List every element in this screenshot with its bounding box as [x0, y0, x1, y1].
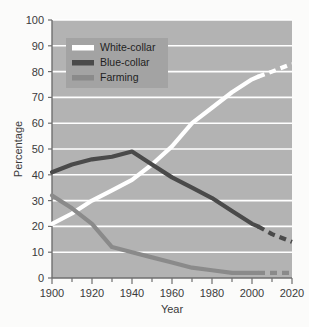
x-axis-ticks	[52, 278, 292, 284]
x-tick-label: 1960	[160, 287, 184, 299]
legend-label: White-collar	[100, 41, 156, 53]
y-tick-label: 10	[32, 246, 44, 258]
y-tick-label: 70	[32, 91, 44, 103]
x-tick-label: 1900	[40, 287, 64, 299]
legend-swatch	[72, 75, 94, 81]
x-axis-title: Year	[161, 303, 184, 315]
chart-page: 0102030405060708090100 19001920194019601…	[0, 0, 309, 327]
y-tick-label: 60	[32, 117, 44, 129]
x-tick-label: 1980	[200, 287, 224, 299]
y-tick-label: 40	[32, 169, 44, 181]
legend-swatch	[72, 45, 94, 51]
legend-label: Farming	[100, 71, 139, 83]
y-tick-label: 80	[32, 66, 44, 78]
x-tick-label: 2020	[280, 287, 304, 299]
x-axis-tick-labels: 1900192019401960198020002020	[40, 287, 304, 299]
legend-swatch	[72, 60, 94, 66]
y-axis-tick-labels: 0102030405060708090100	[26, 14, 44, 284]
y-tick-label: 50	[32, 143, 44, 155]
x-tick-label: 2000	[240, 287, 264, 299]
y-axis-title: Percentage	[12, 121, 24, 177]
y-tick-label: 90	[32, 40, 44, 52]
y-tick-label: 30	[32, 195, 44, 207]
y-tick-label: 20	[32, 220, 44, 232]
x-tick-label: 1940	[120, 287, 144, 299]
y-tick-label: 100	[26, 14, 44, 26]
legend-label: Blue-collar	[100, 56, 150, 68]
x-tick-label: 1920	[80, 287, 104, 299]
chart-legend: White-collarBlue-collarFarming	[66, 38, 168, 88]
y-tick-label: 0	[38, 272, 44, 284]
employment-trend-line-chart: 0102030405060708090100 19001920194019601…	[0, 0, 309, 327]
